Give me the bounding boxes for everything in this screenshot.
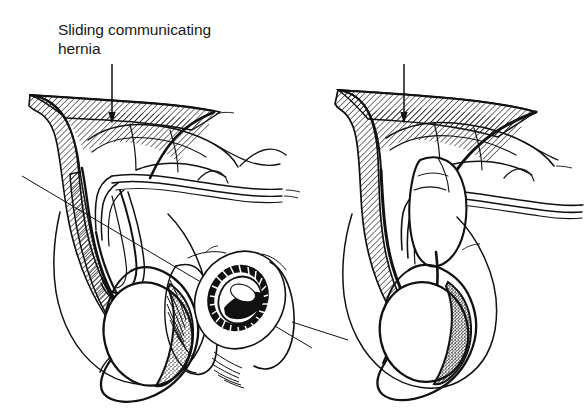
hernia-figure: Sliding communicating hernia Sliding non… [0, 0, 584, 420]
illustration-canvas [0, 0, 584, 420]
right-leader-stub [292, 322, 348, 340]
right-bowel-in-sac [409, 157, 466, 266]
inset-hatch-bottom [212, 352, 244, 388]
